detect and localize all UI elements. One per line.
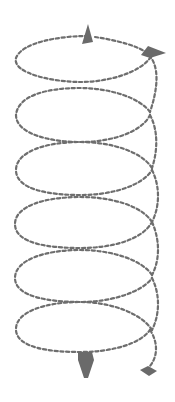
- top-right-arrow-icon: [141, 46, 166, 58]
- helix-tail: [150, 330, 156, 366]
- helix-diagram: [0, 0, 175, 402]
- bottom-down-arrow-icon: [78, 352, 94, 378]
- bottom-right-diamond-icon: [140, 366, 157, 376]
- helix-loop-6: [16, 302, 152, 352]
- helix-connector-5: [152, 278, 158, 330]
- helix-connector-2: [150, 115, 156, 168]
- helix-connector-4: [152, 222, 158, 275]
- helix-connector-3: [152, 170, 158, 222]
- helix-loop-2: [16, 88, 150, 142]
- helix-loop-4: [15, 197, 152, 248]
- helix-loop-5: [15, 250, 152, 302]
- helix-loop-3: [16, 142, 152, 195]
- top-up-arrow-icon: [82, 24, 93, 44]
- helix-coil: [15, 36, 158, 366]
